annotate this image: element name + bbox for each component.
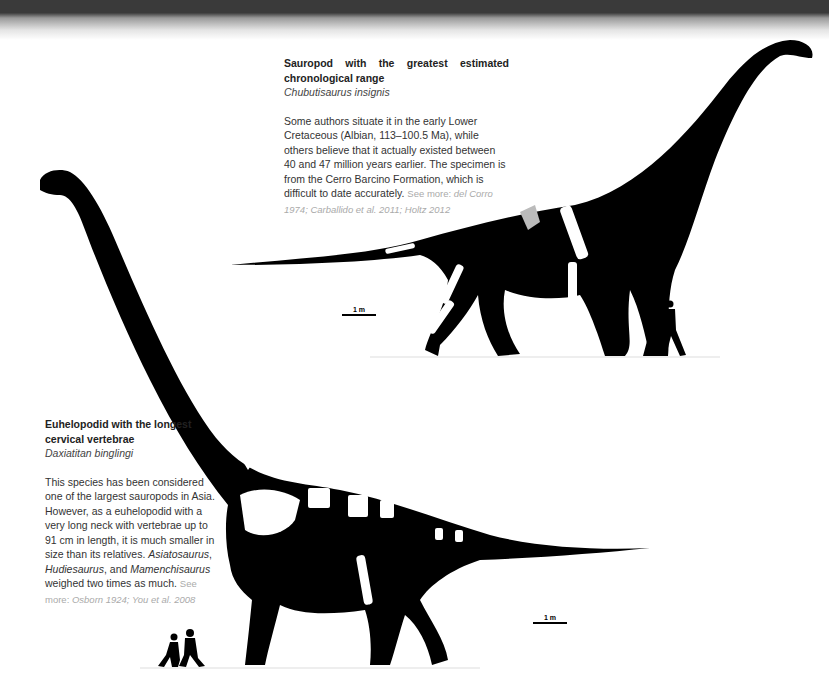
caption-body: Some authors situate it in the early Low…: [284, 114, 509, 218]
human-scale-figures-2: [158, 629, 205, 667]
caption-chubutisaurus: Sauropod with the greatest estimated chr…: [284, 56, 509, 217]
caption-description: Some authors situate it in the early Low…: [284, 115, 506, 200]
caption-title: Euhelopodid with the longest cervical ve…: [45, 417, 220, 446]
caption-title: Sauropod with the greatest estimated chr…: [284, 56, 509, 85]
caption-body: This species has been considered one of …: [45, 475, 220, 608]
scientific-name: Chubutisaurus insignis: [284, 85, 509, 100]
scale-bar-1: 1 m: [342, 306, 376, 316]
caption-daxiatitan: Euhelopodid with the longest cervical ve…: [45, 417, 220, 607]
scientific-name: Daxiatitan binglingi: [45, 446, 220, 461]
scale-bar-2: 1 m: [533, 614, 567, 624]
